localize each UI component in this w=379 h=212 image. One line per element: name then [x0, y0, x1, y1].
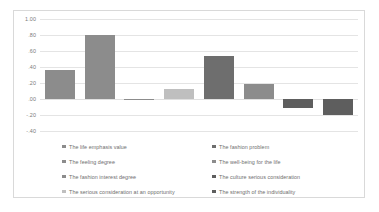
bar[interactable] [283, 99, 313, 108]
chart-container: 1.00.80.60.40.20.00-.20-.40 The life emp… [13, 10, 365, 198]
y-axis-tick-label: .80 [28, 32, 36, 38]
chart-legend: The life emphasis valueThe fashion probl… [62, 139, 358, 199]
legend-item[interactable]: The fashion interest degree [62, 169, 208, 184]
bar-slot [279, 19, 319, 131]
bar-slot [239, 19, 279, 131]
legend-swatch-icon [212, 160, 216, 164]
y-axis-tick-label: .40 [28, 64, 36, 70]
legend-swatch-icon [62, 160, 66, 164]
y-axis-tick-label: 1.00 [25, 16, 36, 22]
plot-area: 1.00.80.60.40.20.00-.20-.40 [40, 19, 358, 131]
legend-swatch-icon [62, 190, 66, 194]
legend-item[interactable]: The fashion problem [212, 139, 358, 154]
bar-series [40, 19, 358, 131]
legend-item-label: The well-being for the life [219, 159, 281, 165]
legend-item[interactable]: The serious consideration at an opportun… [62, 184, 208, 199]
legend-item[interactable]: The feeling degree [62, 154, 208, 169]
legend-item[interactable]: The life emphasis value [62, 139, 208, 154]
bar-slot [318, 19, 358, 131]
bar-slot [120, 19, 160, 131]
legend-item-label: The life emphasis value [69, 144, 127, 150]
legend-item[interactable]: The strength of the individuality [212, 184, 358, 199]
legend-swatch-icon [212, 175, 216, 179]
legend-item-label: The fashion problem [219, 144, 269, 150]
bar[interactable] [45, 70, 75, 99]
legend-item-label: The strength of the individuality [219, 189, 295, 195]
y-axis-tick-label: -.20 [26, 112, 36, 118]
legend-item-label: The fashion interest degree [69, 174, 136, 180]
legend-swatch-icon [212, 145, 216, 149]
bar-slot [199, 19, 239, 131]
y-axis-tick-label: .20 [28, 80, 36, 86]
y-axis-tick-label: .00 [28, 96, 36, 102]
bar[interactable] [124, 99, 154, 100]
bar[interactable] [204, 56, 234, 99]
bar[interactable] [323, 99, 353, 115]
legend-item[interactable]: The well-being for the life [212, 154, 358, 169]
bar[interactable] [244, 84, 274, 99]
y-axis-tick-label: .60 [28, 48, 36, 54]
y-axis-tick-label: -.40 [26, 128, 36, 134]
legend-item[interactable]: The culture serious consideration [212, 169, 358, 184]
legend-swatch-icon [212, 190, 216, 194]
legend-swatch-icon [62, 175, 66, 179]
bar-slot [40, 19, 80, 131]
bar[interactable] [85, 35, 115, 99]
bar-slot [159, 19, 199, 131]
legend-item-label: The culture serious consideration [219, 174, 300, 180]
legend-item-label: The serious consideration at an opportun… [69, 189, 175, 195]
bar-slot [80, 19, 120, 131]
legend-swatch-icon [62, 145, 66, 149]
legend-item-label: The feeling degree [69, 159, 115, 165]
bar[interactable] [164, 89, 194, 99]
gridline [40, 131, 358, 132]
